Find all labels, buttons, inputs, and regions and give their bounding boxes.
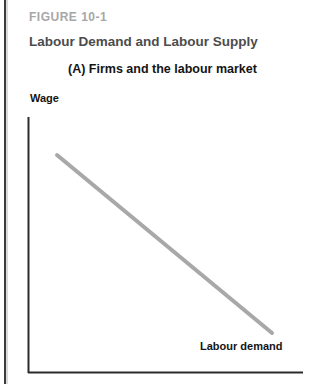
labour-demand-label: Labour demand (200, 340, 283, 352)
figure-page: FIGURE 10-1 Labour Demand and Labour Sup… (0, 0, 310, 384)
chart-svg (0, 0, 310, 384)
chart-plot-area: Wage Labour demand (0, 0, 310, 384)
labour-demand-curve (57, 155, 272, 333)
